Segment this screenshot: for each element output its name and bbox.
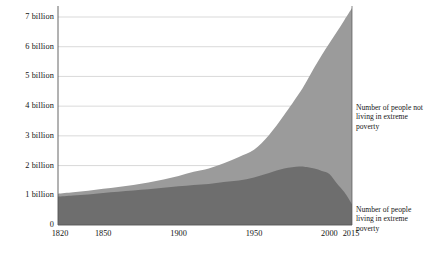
- x-tick-label-1820: 1820: [52, 229, 69, 239]
- y-tick-label-7: 7 billion: [0, 12, 54, 21]
- y-tick-label-1: 1 billion: [0, 190, 54, 199]
- y-tick-label-6: 6 billion: [0, 42, 54, 51]
- y-tick-label-4: 4 billion: [0, 101, 54, 110]
- y-tick-label-2: 2 billion: [0, 161, 54, 170]
- x-tick-label-1900: 1900: [170, 229, 187, 239]
- y-tick-label-0: 0: [0, 220, 54, 229]
- series-annotation-in-poverty: Number of people living in extreme pover…: [356, 205, 424, 233]
- x-tick-label-1950: 1950: [246, 229, 263, 239]
- x-tick-label-2000: 2000: [321, 229, 338, 239]
- y-tick-label-3: 3 billion: [0, 131, 54, 140]
- y-tick-label-5: 5 billion: [0, 71, 54, 80]
- population-poverty-area-chart: 01 billion2 billion3 billion4 billion5 b…: [0, 0, 425, 253]
- x-tick-label-1850: 1850: [95, 229, 112, 239]
- series-annotation-not-in-poverty: Number of people not living in extreme p…: [356, 103, 424, 131]
